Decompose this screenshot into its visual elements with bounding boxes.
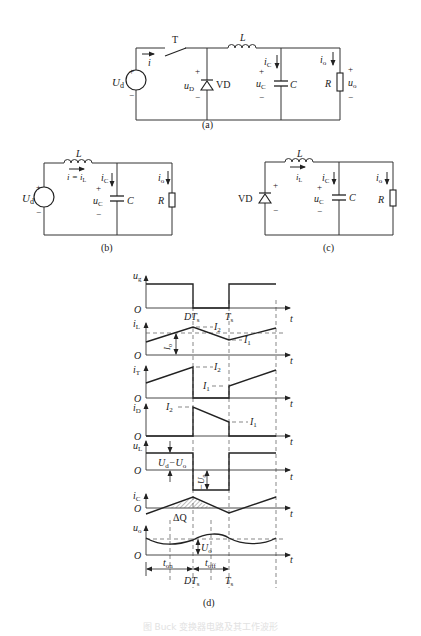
cap-voltage-label: uC xyxy=(314,193,324,206)
svg-text:t: t xyxy=(290,313,293,324)
out-plus: + xyxy=(348,64,353,74)
svg-text:O: O xyxy=(134,350,141,361)
current-label: iL xyxy=(296,172,303,183)
Io-label: Io xyxy=(162,344,173,351)
waveform-iD: iD O t I2 I1 xyxy=(133,401,293,447)
resistor-label: R xyxy=(157,195,164,206)
svg-text:O: O xyxy=(134,503,141,514)
svg-text:t: t xyxy=(290,508,293,519)
diode-icon xyxy=(201,80,213,90)
capacitor-icon xyxy=(332,195,346,200)
inductor-icon xyxy=(64,160,92,164)
capacitor-icon xyxy=(110,196,124,201)
cap-plus: + xyxy=(317,182,322,192)
waveforms-d: ug O t DTs Ts iL O t I2 I1 Io xyxy=(133,270,293,609)
out-minus: − xyxy=(348,92,353,102)
I1-label: I1 xyxy=(243,334,251,347)
ton-label: ton xyxy=(163,557,173,570)
svg-text:iL: iL xyxy=(133,318,140,331)
Uo-label: Uo xyxy=(201,542,212,555)
timing-annotations: ton toff DTs Ts xyxy=(146,557,234,588)
svg-text:O: O xyxy=(134,304,141,315)
cap-plus: + xyxy=(96,183,101,193)
svg-text:I2: I2 xyxy=(213,361,221,374)
diode-minus: − xyxy=(195,92,200,102)
diode-plus: + xyxy=(273,180,278,190)
svg-text:uo: uo xyxy=(133,522,142,535)
inductor-label: L xyxy=(239,32,246,43)
waveform-uo: uo O t Uo xyxy=(133,522,293,565)
delta-Q-label: ΔQ xyxy=(173,512,187,523)
svg-text:O: O xyxy=(134,465,141,476)
wire-bottom xyxy=(136,48,340,120)
cap-current-label: iC xyxy=(264,56,272,69)
svg-text:iC: iC xyxy=(133,490,141,503)
svg-text:t: t xyxy=(290,436,293,447)
resistor-icon xyxy=(337,73,343,91)
capacitor-label: C xyxy=(290,79,297,90)
inductor-label: L xyxy=(75,148,82,159)
svg-text:iT: iT xyxy=(133,364,141,377)
Ud-minus-Uo-label: Ud−Uo xyxy=(158,457,187,470)
diode-voltage-label: uD xyxy=(184,80,194,93)
diode-plus: + xyxy=(195,66,200,76)
capacitor-label: C xyxy=(127,195,134,206)
waveform-ug: ug O t DTs Ts xyxy=(133,270,293,324)
switch-label: T xyxy=(172,34,178,45)
svg-text:DTs: DTs xyxy=(183,575,200,588)
svg-text:t: t xyxy=(290,355,293,366)
source-minus: − xyxy=(129,90,134,100)
load-current-label: io xyxy=(376,172,383,185)
panel-d-label: (d) xyxy=(203,597,215,609)
out-voltage-label: uo xyxy=(348,77,357,90)
inductor-icon xyxy=(285,159,313,162)
resistor-label: R xyxy=(377,194,384,205)
current-label: i xyxy=(148,57,151,68)
cap-current-label: iC xyxy=(322,172,330,185)
waveform-iL: iL O t I2 I1 Io xyxy=(133,318,293,366)
svg-text:t: t xyxy=(290,554,293,565)
svg-text:ug: ug xyxy=(133,270,142,283)
diode-minus: − xyxy=(273,205,278,215)
svg-text:t: t xyxy=(290,471,293,482)
cap-current-label: iC xyxy=(101,172,109,185)
capacitor-label: C xyxy=(349,192,356,203)
svg-text:I1: I1 xyxy=(202,380,210,393)
current-label: i = iL xyxy=(67,172,87,183)
resistor-icon xyxy=(390,190,396,206)
wire-loop xyxy=(265,162,393,235)
svg-text:O: O xyxy=(134,550,141,561)
switch-icon xyxy=(165,48,186,56)
panel-a-label: (a) xyxy=(202,119,213,131)
resistor-label: R xyxy=(324,78,331,89)
circuit-a: Ud + − T i L + − uD VD iC + uC − C io R … xyxy=(112,32,357,131)
I2-label: I2 xyxy=(213,321,221,334)
svg-text:Ts: Ts xyxy=(225,575,234,588)
diode-label: VD xyxy=(216,79,230,90)
panel-b-label: (b) xyxy=(101,242,113,254)
cap-voltage-label: uC xyxy=(93,195,103,208)
source-minus: − xyxy=(36,207,41,217)
diode-icon xyxy=(259,193,271,203)
cap-plus: + xyxy=(259,66,264,76)
inductor-icon xyxy=(228,45,256,48)
source-label: Ud xyxy=(112,76,124,90)
load-current-label: io xyxy=(158,172,165,185)
DTs-label: DTs xyxy=(183,311,200,324)
inductor-label: L xyxy=(296,148,303,159)
svg-text:I1: I1 xyxy=(249,416,257,429)
svg-text:t: t xyxy=(290,398,293,409)
wire-loop xyxy=(44,163,172,235)
figure-caption: 图 Buck 变换器电路及其工作波形 xyxy=(0,620,421,633)
waveform-iC: iC O t ΔQ xyxy=(133,490,293,523)
resistor-icon xyxy=(169,193,175,207)
neg-Uo-label: −Uo xyxy=(196,474,207,490)
svg-text:I2: I2 xyxy=(165,401,173,414)
source-plus: + xyxy=(129,66,134,76)
circuit-c: VD + − L iL iC + uC − C io R (c) xyxy=(238,148,396,254)
load-current-label: io xyxy=(320,54,327,67)
waveform-uL: uL O t Ud−Uo −Uo xyxy=(133,440,293,490)
panel-c-label: (c) xyxy=(323,242,334,254)
source-label: Ud xyxy=(22,192,34,206)
cap-voltage-label: uC xyxy=(256,78,266,91)
